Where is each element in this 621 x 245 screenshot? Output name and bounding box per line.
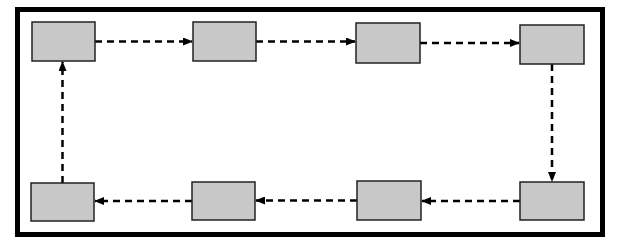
process-box-1 bbox=[32, 22, 95, 61]
cycle-diagram bbox=[0, 0, 621, 245]
edges-layer bbox=[63, 42, 553, 202]
process-box-6 bbox=[357, 181, 421, 220]
process-box-4 bbox=[520, 25, 584, 64]
process-box-8 bbox=[31, 183, 94, 221]
process-box-3 bbox=[356, 23, 420, 63]
process-box-2 bbox=[193, 22, 256, 61]
nodes-layer bbox=[31, 22, 584, 221]
process-box-5 bbox=[520, 182, 584, 220]
process-box-7 bbox=[192, 182, 255, 220]
